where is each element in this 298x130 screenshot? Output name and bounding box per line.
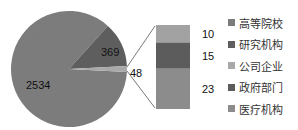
- legend-label: 政府部门: [239, 79, 283, 95]
- legend-label: 公司企业: [239, 58, 283, 74]
- legend-label: 研究机构: [239, 36, 283, 52]
- bar-segment: [156, 69, 190, 109]
- legend-item: 公司企业: [228, 55, 298, 77]
- legend-item: 高等院校: [228, 12, 298, 34]
- bar-value-label: 10: [202, 28, 214, 40]
- bar-segment: [156, 43, 190, 69]
- pie-value-label: 48: [130, 67, 142, 79]
- legend-item: 研究机构: [228, 34, 298, 56]
- pie: [11, 11, 127, 127]
- legend-swatch: [228, 19, 235, 26]
- pie-value-label: 2534: [26, 79, 50, 91]
- bar-value-label: 23: [202, 83, 214, 95]
- legend-swatch: [228, 84, 235, 91]
- pie-value-label: 369: [101, 46, 119, 58]
- legend-item: 政府部门: [228, 77, 298, 99]
- legend-swatch: [228, 41, 235, 48]
- legend-swatch: [228, 105, 235, 112]
- stacked-bar: [156, 25, 190, 109]
- legend-label: 高等院校: [239, 15, 283, 31]
- bar-value-label: 15: [202, 50, 214, 62]
- legend-item: 医疗机构: [228, 98, 298, 120]
- legend-label: 医疗机构: [239, 101, 283, 117]
- bar-segment: [156, 25, 190, 43]
- legend-swatch: [228, 62, 235, 69]
- legend: 高等院校 研究机构 公司企业 政府部门 医疗机构: [228, 12, 298, 120]
